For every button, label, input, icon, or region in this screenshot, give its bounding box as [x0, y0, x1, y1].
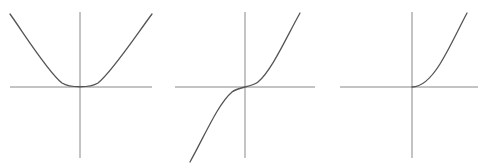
function-graphs-figure [0, 0, 486, 166]
half-parabola-panel [340, 12, 478, 158]
graphs-canvas [0, 0, 486, 166]
cubic-panel [175, 12, 315, 162]
parabola-panel [10, 12, 152, 158]
parabola-curve [10, 14, 152, 87]
half-parabola-curve [412, 13, 467, 87]
